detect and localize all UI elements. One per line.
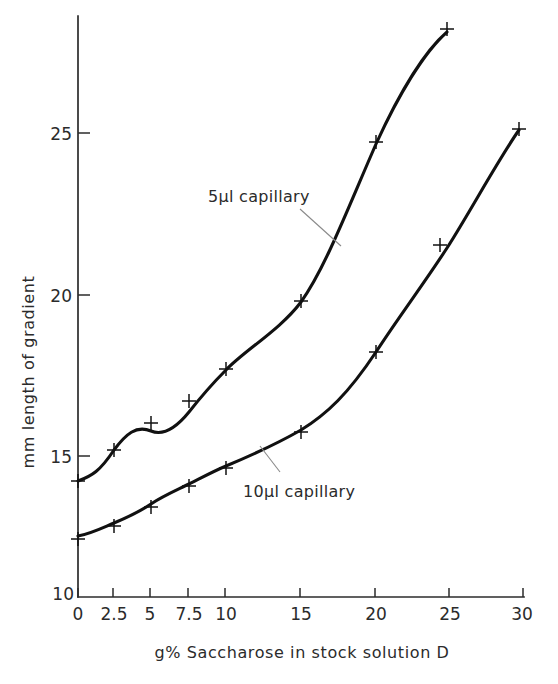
series-5ul-leader-line <box>300 209 341 246</box>
series-10ul-leader-line <box>260 446 280 472</box>
y-tick-label-20: 20 <box>50 286 72 306</box>
series-10ul-label: 10µl capillary <box>243 482 355 501</box>
x-tick-label-10: 10 <box>215 604 237 624</box>
x-tick-label-2p5: 2.5 <box>100 604 127 624</box>
x-tick-label-15: 15 <box>290 604 312 624</box>
x-tick-label-0: 0 <box>73 604 84 624</box>
data-point-marker <box>144 416 158 430</box>
data-point-marker <box>71 474 85 488</box>
chart-figure: 25 20 15 10 0 2.5 5 7.5 10 15 20 25 <box>0 0 558 684</box>
y-tick-label-25: 25 <box>50 124 72 144</box>
y-axis-tick-labels: 25 20 15 10 <box>50 124 74 604</box>
y-axis-ticks <box>78 133 90 456</box>
y-tick-label-15: 15 <box>50 447 72 467</box>
x-tick-label-5: 5 <box>145 604 156 624</box>
x-tick-label-30: 30 <box>511 604 533 624</box>
data-point-marker <box>440 22 454 36</box>
x-tick-label-7p5: 7.5 <box>175 604 202 624</box>
series-10ul-capillary: 10µl capillary <box>71 122 526 546</box>
x-axis-tick-labels: 0 2.5 5 7.5 10 15 20 25 30 <box>73 604 533 624</box>
x-tick-label-25: 25 <box>439 604 461 624</box>
plot-area: 25 20 15 10 0 2.5 5 7.5 10 15 20 25 <box>0 0 558 684</box>
series-5ul-curve <box>78 32 447 481</box>
x-tick-label-20: 20 <box>365 604 387 624</box>
y-tick-label-10: 10 <box>52 584 74 604</box>
x-axis-ticks <box>78 588 523 597</box>
y-axis-title: mm length of gradient <box>19 276 38 469</box>
series-5ul-capillary: 5µl capillary <box>71 22 454 488</box>
series-5ul-markers <box>71 22 454 488</box>
series-5ul-label: 5µl capillary <box>208 187 310 206</box>
data-point-marker <box>512 122 526 136</box>
x-axis-title: g% Saccharose in stock solution D <box>154 643 449 662</box>
